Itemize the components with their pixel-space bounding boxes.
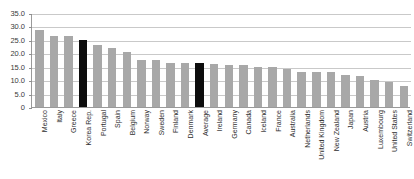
bar — [239, 65, 247, 107]
x-label-slot: Ireland — [206, 110, 221, 178]
x-label-slot: Average — [191, 110, 206, 178]
bar — [312, 72, 320, 107]
bar — [64, 36, 72, 107]
x-label-slot: New Zealand — [323, 110, 338, 178]
bar-series — [32, 13, 411, 107]
bar — [283, 69, 291, 107]
bar-slot — [32, 13, 47, 107]
y-tick-label: 5.0 — [0, 91, 25, 99]
chart-title — [0, 0, 414, 4]
y-tick-label: 15.0 — [0, 64, 25, 72]
bar — [50, 36, 58, 107]
y-tick-label: 0 — [0, 104, 25, 112]
bar-slot — [367, 13, 382, 107]
x-label-slot: Norway — [133, 110, 148, 178]
bar — [356, 76, 364, 107]
bar-slot — [105, 13, 120, 107]
bar-slot — [382, 13, 397, 107]
x-label-slot: Germany — [221, 110, 236, 178]
bar-slot — [353, 13, 368, 107]
x-label-slot: Mexico — [31, 110, 46, 178]
bar — [268, 67, 276, 107]
x-label-slot: United Kingdom — [308, 110, 323, 178]
bar — [225, 65, 233, 107]
x-label-slot: Switzerland — [395, 110, 410, 178]
bar — [166, 63, 174, 107]
bar-slot — [251, 13, 266, 107]
bar — [341, 75, 349, 107]
plot-area: 35.030.025.020.015.010.05.00 — [31, 14, 410, 108]
bar — [254, 67, 262, 107]
bar-slot — [134, 13, 149, 107]
bar-slot — [338, 13, 353, 107]
x-label-slot: Austria — [352, 110, 367, 178]
x-label-slot: Japan — [337, 110, 352, 178]
bar-slot — [265, 13, 280, 107]
x-label-slot: Luxembourg — [366, 110, 381, 178]
x-label-slot: Australia — [279, 110, 294, 178]
bar-slot — [396, 13, 411, 107]
bar-slot — [163, 13, 178, 107]
bar-slot — [309, 13, 324, 107]
y-tick-mark — [29, 108, 32, 109]
bar — [137, 60, 145, 107]
bar-highlighted — [79, 40, 87, 107]
bar-slot — [236, 13, 251, 107]
bar — [297, 72, 305, 107]
x-label-slot: Greece — [60, 110, 75, 178]
x-axis-labels: MexicoItalyGreeceKorea Rep.PortugalSpain… — [31, 110, 410, 178]
y-tick-label: 25.0 — [0, 37, 25, 45]
bar — [400, 86, 408, 107]
x-label-slot: Sweden — [148, 110, 163, 178]
bar — [35, 30, 43, 107]
bar-slot — [47, 13, 62, 107]
y-tick-label: 10.0 — [0, 77, 25, 85]
bar — [327, 72, 335, 107]
x-label-slot: France — [264, 110, 279, 178]
y-tick-label: 35.0 — [0, 10, 25, 18]
x-label-slot: United States — [381, 110, 396, 178]
bar-slot — [324, 13, 339, 107]
bar — [108, 48, 116, 107]
bar — [152, 60, 160, 107]
bar-slot — [192, 13, 207, 107]
bar-slot — [294, 13, 309, 107]
bar-slot — [280, 13, 295, 107]
bar-slot — [76, 13, 91, 107]
x-label-slot: Korea Rep. — [75, 110, 90, 178]
bar-slot — [222, 13, 237, 107]
x-label-slot: Belgium — [118, 110, 133, 178]
x-label-slot: Iceland — [250, 110, 265, 178]
bar — [370, 80, 378, 107]
x-label-slot: Spain — [104, 110, 119, 178]
y-tick-label: 30.0 — [0, 23, 25, 31]
x-label-slot: Netherlands — [293, 110, 308, 178]
bar-slot — [149, 13, 164, 107]
bar-slot — [119, 13, 134, 107]
bar — [385, 82, 393, 108]
bar — [93, 45, 101, 107]
x-label-slot: Canada — [235, 110, 250, 178]
bar-slot — [61, 13, 76, 107]
x-label-slot: Portugal — [89, 110, 104, 178]
bar-slot — [90, 13, 105, 107]
y-tick-label: 20.0 — [0, 50, 25, 58]
bar-chart: 35.030.025.020.015.010.05.00 MexicoItaly… — [0, 0, 414, 179]
bar-slot — [178, 13, 193, 107]
x-label-slot: Italy — [46, 110, 61, 178]
bar — [123, 52, 131, 107]
bar-highlighted — [195, 63, 203, 107]
x-label-slot: Denmark — [177, 110, 192, 178]
bar — [181, 63, 189, 107]
bar — [210, 64, 218, 107]
x-label-slot: Finland — [162, 110, 177, 178]
bar-slot — [207, 13, 222, 107]
x-tick-label: Switzerland — [406, 110, 413, 146]
